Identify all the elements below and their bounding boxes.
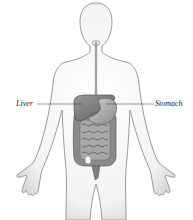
liver-label: Liver (16, 99, 33, 108)
digestive-system-diagram (0, 0, 193, 220)
stomach-label: Stomach (155, 99, 183, 108)
